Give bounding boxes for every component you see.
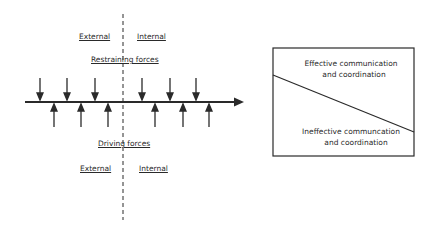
- driving-arrows: [51, 104, 212, 127]
- effective-label: Effective communication and coordination: [296, 58, 406, 80]
- continuum-diagonal: [273, 75, 414, 132]
- effective-label-line1: Effective communication: [296, 58, 406, 69]
- force-field-diagram: [0, 0, 435, 229]
- ineffective-label-line2: and coordination: [296, 137, 406, 148]
- driving-forces-label: Driving forces: [98, 140, 150, 148]
- bottom-internal-label: Internal: [139, 165, 168, 173]
- restraining-forces-label: Restraining forces: [91, 56, 159, 64]
- arrowhead-icon: [234, 98, 244, 107]
- effective-label-line2: and coordination: [296, 69, 406, 80]
- top-external-label: External: [79, 33, 110, 41]
- bottom-external-label: External: [80, 165, 111, 173]
- restraining-arrows: [37, 78, 199, 100]
- ineffective-label: Ineffective communcation and coordinatio…: [296, 126, 406, 148]
- top-internal-label: Internal: [137, 33, 166, 41]
- ineffective-label-line1: Ineffective communcation: [296, 126, 406, 137]
